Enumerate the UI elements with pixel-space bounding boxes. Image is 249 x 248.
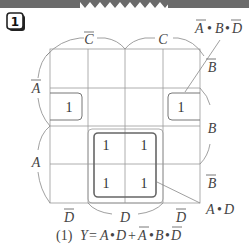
svg-text:D: D (175, 210, 186, 225)
svg-text:C: C (84, 32, 94, 47)
problem-number-badge: 1 (7, 13, 25, 31)
svg-text:D: D (63, 210, 74, 225)
col-label-dbar-left: D (63, 209, 74, 225)
svg-text:1: 1 (66, 100, 73, 115)
svg-text:1: 1 (103, 138, 110, 153)
svg-text:A: A (205, 202, 215, 217)
svg-text:A: A (137, 228, 147, 243)
svg-text:•: • (149, 228, 154, 243)
result-equation: (1) Y = A • D + A • B • D (56, 227, 182, 244)
term-label-abar-b-dbar: A • B • D (194, 20, 242, 36)
svg-text:•: • (165, 228, 170, 243)
svg-text:A: A (194, 21, 204, 36)
svg-text:1: 1 (141, 138, 148, 153)
row-label-bbar-bottom: B (206, 175, 217, 191)
svg-text:1: 1 (178, 100, 185, 115)
svg-text:(1): (1) (56, 228, 73, 244)
svg-text:D: D (115, 228, 126, 243)
svg-text:B: B (208, 176, 217, 191)
header-bar (0, 0, 249, 8)
row-label-bbar-top: B (206, 59, 217, 75)
svg-text:C: C (158, 32, 168, 47)
kmap-grid (50, 49, 200, 203)
svg-text:A: A (31, 155, 41, 170)
svg-text:1: 1 (11, 15, 19, 29)
svg-text:B: B (155, 228, 164, 243)
svg-text:B: B (208, 121, 217, 136)
leader-line-a-d (157, 182, 200, 203)
svg-text:=: = (89, 228, 97, 243)
svg-text:D: D (223, 202, 234, 217)
col-label-dbar-right: D (175, 209, 186, 225)
svg-text:A: A (31, 81, 41, 96)
svg-text:•: • (225, 21, 230, 36)
karnaugh-map-figure: 1 C C A A (0, 0, 249, 248)
svg-text:D: D (170, 228, 181, 243)
row-label-abar: A (31, 80, 41, 96)
svg-text:•: • (207, 21, 212, 36)
svg-text:•: • (217, 202, 222, 217)
svg-text:•: • (110, 228, 115, 243)
svg-text:A: A (99, 228, 109, 243)
row-label-b: B (208, 121, 217, 136)
col-label-c: C (158, 32, 168, 47)
col-label-cbar: C (84, 32, 94, 47)
row-braces-left (38, 52, 50, 203)
row-label-a: A (31, 155, 41, 170)
svg-text:D: D (119, 210, 130, 225)
svg-text:1: 1 (141, 176, 148, 191)
svg-text:1: 1 (103, 176, 110, 191)
svg-text:D: D (231, 21, 242, 36)
svg-text:B: B (215, 21, 224, 36)
svg-text:+: + (128, 228, 136, 243)
term-label-a-d: A • D (205, 202, 234, 217)
group-loop-a-d-outer (88, 129, 163, 203)
col-label-d: D (119, 210, 130, 225)
svg-text:B: B (208, 60, 217, 75)
